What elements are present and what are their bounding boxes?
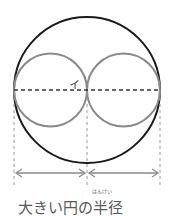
arrow-left xyxy=(16,169,85,177)
mark-i-label: イ xyxy=(69,76,80,92)
caption-ruby: はんけい xyxy=(92,187,112,194)
arrow-right xyxy=(89,169,158,177)
caption: 大きい円の半径 xyxy=(18,196,123,216)
circle-diagram xyxy=(0,0,172,216)
